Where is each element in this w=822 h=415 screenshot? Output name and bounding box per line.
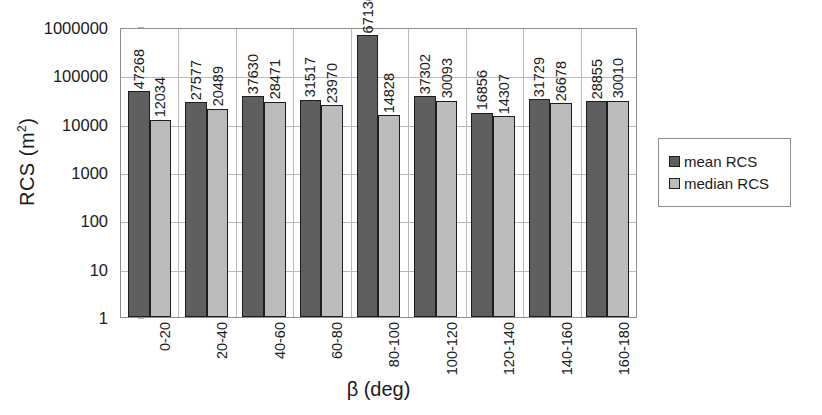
bar-value-label: 26678 xyxy=(554,61,569,101)
bar-median-rcs[interactable]: 26678 xyxy=(550,103,572,317)
x-axis-tick-label: 0-20 xyxy=(157,322,173,351)
bar-group: 4726812034 xyxy=(121,29,178,317)
bar-value-label: 37302 xyxy=(418,54,433,94)
bar-value-label: 16856 xyxy=(475,70,490,110)
bar-group: 3151723970 xyxy=(293,29,350,317)
y-axis-tick-label: 1000000 xyxy=(44,19,108,38)
x-axis-tick-cell: 0-20 xyxy=(120,322,177,380)
x-axis-tick-label: 80-100 xyxy=(386,322,402,367)
legend-item[interactable]: mean RCS xyxy=(669,153,782,170)
y-axis-tick-label: 1000 xyxy=(71,164,108,183)
legend-label: median RCS xyxy=(684,175,769,192)
x-axis-tick-label: 100-120 xyxy=(444,322,460,375)
bar-value-label: 27577 xyxy=(189,60,204,100)
bar-mean-rcs[interactable]: 31729 xyxy=(529,99,551,317)
bar-groups: 4726812034275772048937630284713151723970… xyxy=(121,29,636,317)
bar-group: 2757720489 xyxy=(178,29,235,317)
x-axis-tick-label: 120-140 xyxy=(501,322,517,375)
bar-value-label: 12034 xyxy=(153,77,168,117)
legend-label: mean RCS xyxy=(684,153,757,170)
bar-value-label: 30093 xyxy=(439,58,454,98)
legend-item[interactable]: median RCS xyxy=(669,175,782,192)
bar-mean-rcs[interactable]: 16856 xyxy=(471,113,493,317)
x-axis-tick-labels: 0-2020-4040-6060-8080-100100-120120-1401… xyxy=(120,322,637,380)
bar-pair: 3151723970 xyxy=(293,29,350,317)
x-axis-tick-cell: 40-60 xyxy=(235,322,292,380)
bar-value-label: 28471 xyxy=(268,59,283,99)
x-axis-title: β (deg) xyxy=(120,378,637,401)
x-axis-tick-label: 160-180 xyxy=(616,322,632,375)
bar-pair: 3172926678 xyxy=(522,29,579,317)
bar-value-label: 14307 xyxy=(496,74,511,114)
legend-swatch-icon xyxy=(669,178,680,189)
bar-median-rcs[interactable]: 28471 xyxy=(264,102,286,317)
bar-mean-rcs[interactable]: 37302 xyxy=(414,96,436,317)
bar-value-label: 30010 xyxy=(611,58,626,98)
bar-median-rcs[interactable]: 14828 xyxy=(378,115,400,317)
bar-value-label: 20489 xyxy=(210,66,225,106)
bar-group: 3730230093 xyxy=(407,29,464,317)
bar-pair: 2885530010 xyxy=(579,29,636,317)
y-axis-tick-label: 10 xyxy=(90,260,108,279)
y-axis-tick-label: 10000 xyxy=(62,115,108,134)
x-axis-tick-label: 20-40 xyxy=(214,322,230,359)
bar-mean-rcs[interactable]: 671361 xyxy=(357,35,379,317)
legend: mean RCSmedian RCS xyxy=(658,138,791,207)
bar-median-rcs[interactable]: 20489 xyxy=(207,109,229,317)
bar-median-rcs[interactable]: 30093 xyxy=(436,101,458,317)
x-axis-tick-label: 40-60 xyxy=(272,322,288,359)
x-axis-tick-cell: 80-100 xyxy=(350,322,407,380)
x-axis-tick-label: 140-160 xyxy=(559,322,575,375)
bar-value-label: 37630 xyxy=(246,54,261,94)
bar-value-label: 23970 xyxy=(325,63,340,103)
y-axis-tick-label: 100 xyxy=(80,212,108,231)
bar-value-label: 14828 xyxy=(382,73,397,113)
bar-group: 1685614307 xyxy=(464,29,521,317)
y-axis-tick-label: 100000 xyxy=(53,67,108,86)
bar-median-rcs[interactable]: 23970 xyxy=(321,105,343,317)
bar-pair: 3730230093 xyxy=(407,29,464,317)
bar-value-label: 47268 xyxy=(132,49,147,89)
y-axis-tick-labels: 1000000100000100001000100101 xyxy=(24,28,114,318)
plot-area: 4726812034275772048937630284713151723970… xyxy=(120,28,637,318)
bar-pair: 2757720489 xyxy=(178,29,235,317)
bar-group: 67136114828 xyxy=(350,29,407,317)
bar-value-label: 28855 xyxy=(589,59,604,99)
x-axis-tick-cell: 60-80 xyxy=(292,322,349,380)
x-axis-tick-label: 60-80 xyxy=(329,322,345,359)
bar-pair: 4726812034 xyxy=(121,29,178,317)
legend-swatch-icon xyxy=(669,156,680,167)
x-axis-tick-cell: 160-180 xyxy=(580,322,637,380)
x-axis-tick-cell: 140-160 xyxy=(522,322,579,380)
bar-mean-rcs[interactable]: 37630 xyxy=(242,96,264,317)
bar-median-rcs[interactable]: 12034 xyxy=(150,120,172,317)
bar-pair: 3763028471 xyxy=(235,29,292,317)
bar-mean-rcs[interactable]: 27577 xyxy=(185,102,207,317)
y-axis-tick-label: 1 xyxy=(99,309,108,328)
bar-group: 3172926678 xyxy=(522,29,579,317)
bar-mean-rcs[interactable]: 31517 xyxy=(300,100,322,317)
bar-pair: 1685614307 xyxy=(464,29,521,317)
x-axis-tick-cell: 100-120 xyxy=(407,322,464,380)
bar-pair: 67136114828 xyxy=(350,29,407,317)
bar-value-label: 31517 xyxy=(303,57,318,97)
bar-mean-rcs[interactable]: 47268 xyxy=(128,91,150,317)
bar-median-rcs[interactable]: 14307 xyxy=(493,116,515,317)
rcs-bar-chart-figure: RCS (m2) 1000000100000100001000100101 47… xyxy=(0,0,822,415)
bar-median-rcs[interactable]: 30010 xyxy=(607,101,629,317)
bar-mean-rcs[interactable]: 28855 xyxy=(586,101,608,317)
bar-value-label: 31729 xyxy=(532,57,547,97)
x-axis-tick-cell: 20-40 xyxy=(177,322,234,380)
bar-group: 2885530010 xyxy=(579,29,636,317)
x-axis-tick-cell: 120-140 xyxy=(465,322,522,380)
bar-value-label: 671361 xyxy=(360,0,375,33)
bar-group: 3763028471 xyxy=(235,29,292,317)
